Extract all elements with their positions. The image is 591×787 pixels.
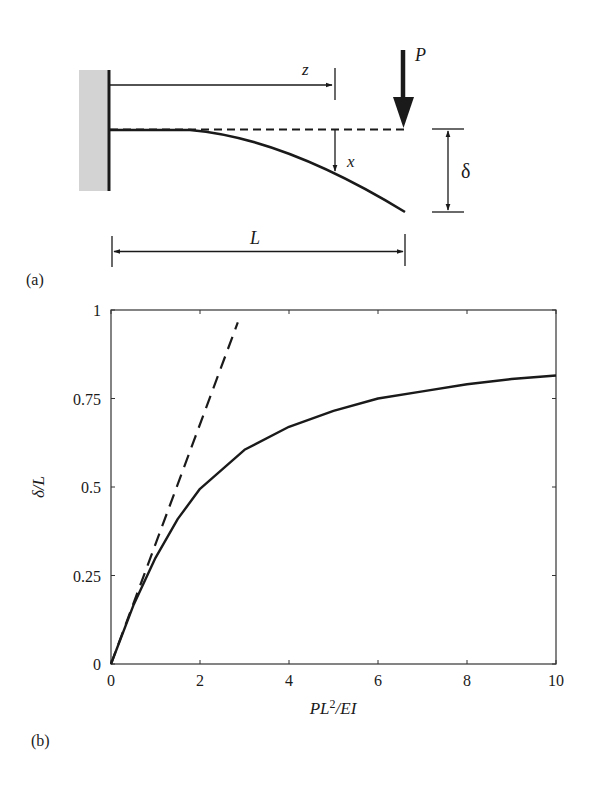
x-tick-label: 6 xyxy=(374,672,382,689)
x-axis-label: PL2/EI xyxy=(309,697,358,718)
x-tick-label: 10 xyxy=(548,672,564,689)
y-tick-label: 0 xyxy=(93,656,101,673)
elastica-solid-curve xyxy=(111,376,556,665)
y-tick-label: 1 xyxy=(93,302,101,319)
y-axis-ticks: 00.250.50.751 xyxy=(73,302,556,673)
y-tick-label: 0.25 xyxy=(73,568,101,585)
delta-label: δ xyxy=(461,160,470,182)
deflected-beam xyxy=(110,130,405,212)
figure: z x P δ L (a) 0246810 00.250.50.751 δ/L … xyxy=(0,0,591,787)
x-axis-ticks: 0246810 xyxy=(107,310,564,689)
y-axis-label: δ/L xyxy=(29,476,48,498)
z-label: z xyxy=(301,60,309,79)
x-tick-label: 8 xyxy=(463,672,471,689)
y-tick-label: 0.75 xyxy=(73,391,101,408)
panel-a-label: (a) xyxy=(26,271,44,289)
p-label: P xyxy=(414,45,426,65)
x-tick-label: 4 xyxy=(285,672,293,689)
x-tick-label: 2 xyxy=(196,672,204,689)
length-label: L xyxy=(249,228,260,248)
load-arrow-head xyxy=(393,97,414,128)
cantilever-diagram: z x P δ L (a) xyxy=(26,45,470,289)
fixed-wall-support xyxy=(79,70,108,191)
x-tick-label: 0 xyxy=(107,672,115,689)
y-tick-label: 0.5 xyxy=(81,479,101,496)
panel-b-label: (b) xyxy=(31,732,50,750)
x-label: x xyxy=(346,152,355,171)
deflection-chart: 0246810 00.250.50.751 δ/L PL2/EI (b) xyxy=(29,302,564,750)
